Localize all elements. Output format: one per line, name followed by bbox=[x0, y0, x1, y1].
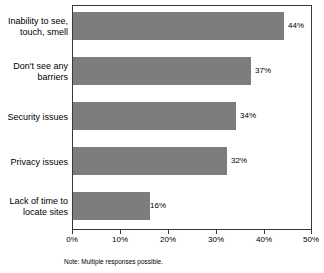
bar-value-4: 16% bbox=[150, 192, 166, 220]
category-label-2: Security issues bbox=[0, 112, 68, 123]
category-label-0-line-1: touch, smell bbox=[0, 27, 68, 38]
category-label-3: Privacy issues bbox=[0, 157, 68, 168]
category-label-1: Don't see any barriers bbox=[0, 61, 68, 83]
x-tick-mark-2 bbox=[168, 230, 169, 234]
bar-row: 37% bbox=[73, 57, 312, 85]
x-tick-label-4: 40% bbox=[244, 235, 284, 244]
bar-chart-figure: Inability to see, touch, smell Don't see… bbox=[0, 0, 324, 273]
x-tick-label-3: 30% bbox=[196, 235, 236, 244]
bar-4 bbox=[73, 192, 150, 220]
chart-footnote: Note: Multiple responses possible. bbox=[64, 258, 163, 265]
category-label-3-line-0: Privacy issues bbox=[0, 157, 68, 168]
category-label-0-line-0: Inability to see, bbox=[0, 16, 68, 27]
bar-1 bbox=[73, 57, 251, 85]
category-label-4-line-0: Lack of time to bbox=[0, 196, 68, 207]
x-tick-mark-0 bbox=[72, 230, 73, 234]
category-label-1-line-0: Don't see any bbox=[0, 61, 68, 72]
category-label-4: Lack of time to locate sites bbox=[0, 196, 68, 218]
category-label-0: Inability to see, touch, smell bbox=[0, 16, 68, 38]
x-tick-label-2: 20% bbox=[148, 235, 188, 244]
x-tick-mark-3 bbox=[216, 230, 217, 234]
category-label-2-line-0: Security issues bbox=[0, 112, 68, 123]
bar-value-1: 37% bbox=[255, 57, 271, 85]
bar-value-3: 32% bbox=[231, 147, 247, 175]
bar-value-2: 34% bbox=[240, 102, 256, 130]
bar-2 bbox=[73, 102, 236, 130]
bar-row: 16% bbox=[73, 192, 312, 220]
category-label-1-line-1: barriers bbox=[0, 72, 68, 83]
x-tick-label-0: 0% bbox=[52, 235, 92, 244]
bar-row: 44% bbox=[73, 12, 312, 40]
bar-value-0: 44% bbox=[288, 12, 304, 40]
x-tick-label-5: 50% bbox=[291, 235, 324, 244]
bar-row: 32% bbox=[73, 147, 312, 175]
bar-row: 34% bbox=[73, 102, 312, 130]
x-tick-mark-5 bbox=[311, 230, 312, 234]
bar-0 bbox=[73, 12, 284, 40]
x-tick-label-1: 10% bbox=[100, 235, 140, 244]
bar-3 bbox=[73, 147, 227, 175]
x-tick-mark-4 bbox=[264, 230, 265, 234]
category-label-4-line-1: locate sites bbox=[0, 207, 68, 218]
x-tick-mark-1 bbox=[120, 230, 121, 234]
